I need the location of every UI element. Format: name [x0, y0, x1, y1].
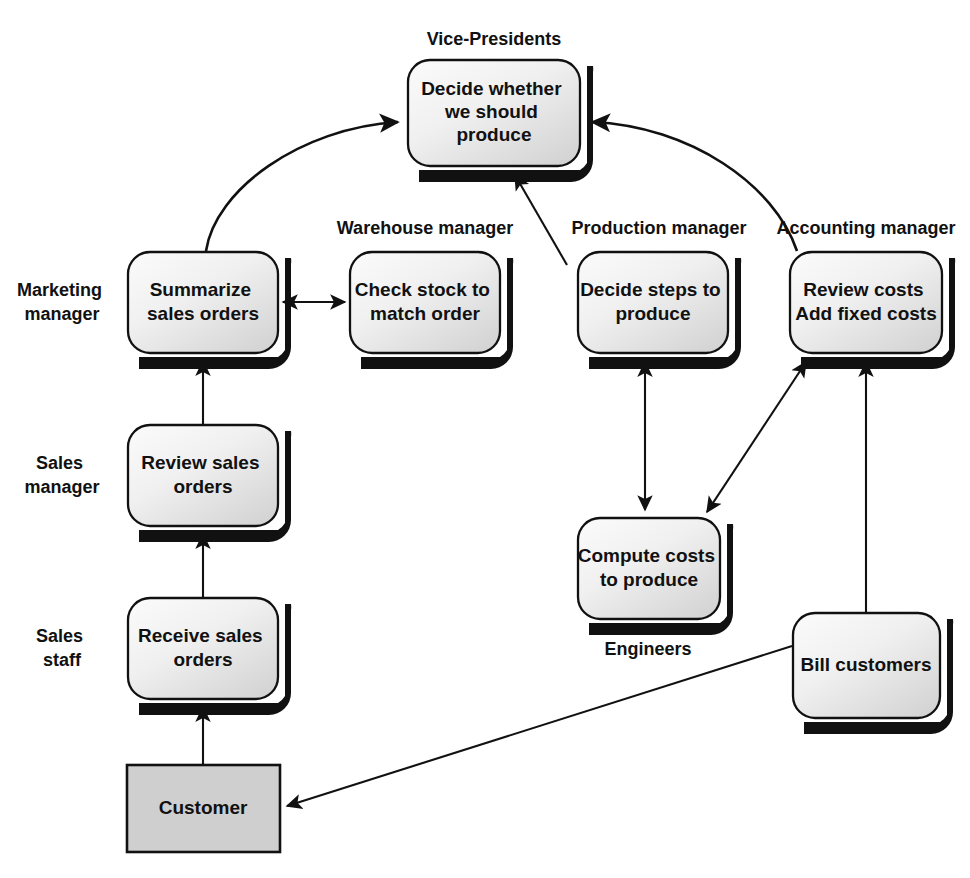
role-label-production-manager: Production manager	[571, 218, 746, 238]
role-label-marketing-manager: Marketing manager	[17, 280, 107, 324]
edge-decide-steps-to-decide-produce	[515, 175, 567, 265]
role-label-sales-manager: Sales manager	[24, 453, 99, 497]
role-label-warehouse-manager: Warehouse manager	[337, 218, 513, 238]
node-decide-steps-produce[interactable]: Decide steps to produce	[578, 252, 741, 369]
node-receive-sales-orders[interactable]: Receive sales orders	[128, 598, 291, 715]
process-flow-diagram: Decide whether we should produce Summari…	[0, 0, 970, 878]
node-review-costs[interactable]: Review costs Add fixed costs	[790, 252, 955, 369]
node-bill-customers[interactable]: Bill customers	[793, 613, 953, 734]
node-review-sales-orders[interactable]: Review sales orders	[128, 425, 291, 542]
node-compute-costs[interactable]: Compute costs to produce	[578, 518, 733, 635]
node-decide-whether-produce[interactable]: Decide whether we should produce	[408, 60, 593, 182]
node-text: Customer	[159, 797, 248, 818]
diagram-canvas: Decide whether we should produce Summari…	[0, 0, 970, 878]
role-label-sales-staff: Sales staff	[36, 626, 88, 670]
node-check-stock[interactable]: Check stock to match order	[350, 252, 513, 369]
edge-bill-customers-to-customer	[287, 646, 792, 806]
role-label-engineers: Engineers	[604, 639, 691, 659]
node-summarize-sales-orders[interactable]: Summarize sales orders	[128, 252, 291, 369]
node-text: Bill customers	[801, 654, 932, 675]
edge-compute-costs-to-review-costs	[707, 362, 806, 512]
role-label-accounting-manager: Accounting manager	[776, 218, 955, 238]
role-label-vice-presidents: Vice-Presidents	[427, 29, 562, 49]
edge-layer	[203, 122, 866, 806]
node-customer[interactable]: Customer	[127, 765, 280, 852]
